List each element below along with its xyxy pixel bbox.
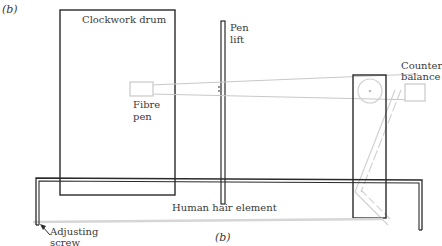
- fibre-pen-label-line1: Fibre: [133, 99, 160, 111]
- pen-lift-bar: [221, 21, 225, 204]
- counter-balance-label-line2: balance: [401, 71, 440, 83]
- panel-label: (b): [2, 4, 18, 16]
- pen-arm-lower: [150, 94, 418, 100]
- pen-lift-label-line1: Pen: [230, 22, 249, 34]
- clockwork-drum-label: Clockwork drum: [82, 14, 166, 26]
- fibre-pen: [130, 82, 153, 96]
- pen-lift-label-line2: lift: [230, 34, 244, 46]
- figure-caption: (b): [215, 232, 231, 244]
- adjusting-screw-label-line2: screw: [50, 237, 80, 246]
- linkage-diagonal-1: [355, 90, 395, 192]
- pivot-center: [369, 90, 372, 93]
- counter-balance: [405, 84, 425, 101]
- fibre-pen-label-line2: pen: [133, 111, 152, 123]
- linkage-diagonal-2: [361, 90, 401, 192]
- human-hair-element-label: Human hair element: [172, 202, 277, 214]
- human-hair-element: [33, 219, 383, 222]
